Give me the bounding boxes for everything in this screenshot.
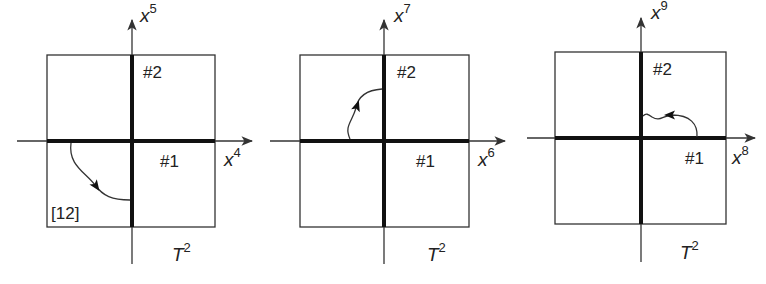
x-axis-label-superscript: 6 — [488, 145, 495, 160]
x-axis-label: x8 — [731, 143, 749, 168]
x-axis-label-superscript: 4 — [234, 145, 241, 160]
brane-1-label: #1 — [160, 152, 179, 171]
y-axis-label-superscript: 5 — [150, 1, 157, 16]
rotation-curve — [348, 89, 382, 139]
y-axis-label-superscript: 7 — [404, 1, 411, 16]
panel-1: x4 x5 #1 #2 T2 [12] — [17, 1, 252, 265]
torus-label-superscript: 2 — [692, 238, 699, 253]
y-axis-label: x7 — [393, 1, 411, 26]
torus-label: T2 — [680, 238, 699, 263]
x-axis-label: x4 — [223, 145, 241, 170]
brane-1-label: #1 — [416, 152, 435, 171]
torus-label-superscript: 2 — [184, 240, 191, 255]
brane-2-label: #2 — [653, 60, 672, 79]
torus-label: T2 — [427, 240, 446, 265]
brane-2-label: #2 — [143, 63, 162, 82]
rotation-curve — [643, 114, 697, 137]
rotation-curve — [71, 143, 130, 200]
curve-arrowhead-icon — [351, 99, 363, 112]
x-axis-label: x6 — [477, 145, 495, 170]
torus-label-superscript: 2 — [439, 240, 446, 255]
panel-3: x8 x9 #1 #2 T2 — [527, 0, 755, 263]
y-axis-label: x9 — [650, 0, 668, 23]
panel-2: x6 x7 #1 #2 T2 — [270, 1, 505, 265]
brane-2-label: #2 — [397, 63, 416, 82]
x-axis-label-superscript: 8 — [742, 143, 749, 158]
brane-1-label: #1 — [685, 149, 704, 168]
y-axis-label: x5 — [139, 1, 157, 26]
torus-label: T2 — [172, 240, 191, 265]
torus-brane-diagram: x4 x5 #1 #2 T2 [12] x6 x7 #1 #2 T2 — [0, 0, 766, 284]
reference-annotation: [12] — [51, 204, 79, 223]
y-axis-label-superscript: 9 — [661, 0, 668, 13]
